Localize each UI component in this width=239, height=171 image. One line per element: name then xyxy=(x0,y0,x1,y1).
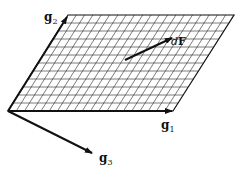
g2-label: g2 xyxy=(44,10,57,26)
g1-label: g1 xyxy=(161,118,174,134)
surface-diagram: g2 g1 g3 dF xyxy=(0,0,239,171)
dF-vector-arrow xyxy=(125,38,172,60)
g3-vector-arrow xyxy=(8,111,92,153)
g3-label: g3 xyxy=(99,151,112,167)
mesh-grid xyxy=(13,15,229,111)
dF-label: dF xyxy=(171,35,186,48)
